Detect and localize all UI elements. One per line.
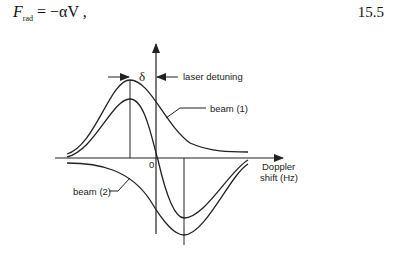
laser-detuning-label: laser detuning <box>183 71 243 82</box>
x-axis-label-line2: shift (Hz) <box>260 172 298 183</box>
force-curve-lower <box>158 160 248 218</box>
beam1-label: beam (1) <box>210 103 248 114</box>
doppler-force-diagram: δ laser detuning beam (1) beam (2) 0 Dop… <box>0 0 398 258</box>
origin-label: 0 <box>149 159 154 170</box>
beam2-curve-outer <box>67 163 248 235</box>
beam1-leader-line <box>166 108 206 118</box>
beam1-curve-outer <box>67 80 248 154</box>
x-axis-label-line1: Doppler <box>262 161 295 172</box>
delta-label: δ <box>139 69 145 84</box>
beam2-label: beam (2) <box>73 186 111 197</box>
beam2-leader-line <box>109 178 130 191</box>
force-curve-upper <box>67 99 158 160</box>
